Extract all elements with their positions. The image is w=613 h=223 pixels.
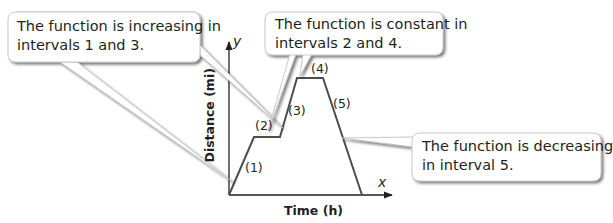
callout-decreasing-line1: The function is decreasing <box>422 137 613 156</box>
segment-label-3: (3) <box>288 103 306 118</box>
callout-constant: The function is constant in intervals 2 … <box>275 15 467 53</box>
segment-label-4: (4) <box>311 61 329 76</box>
callout-decreasing: The function is decreasing in interval 5… <box>422 137 613 175</box>
segment-label-1: (1) <box>245 160 263 175</box>
callout-increasing-line2: intervals 1 and 3. <box>17 36 221 55</box>
segment-label-2: (2) <box>255 118 273 133</box>
segment-label-5: (5) <box>333 96 351 111</box>
x-axis-title: Time (h) <box>284 203 343 218</box>
y-axis-title: Distance (mi) <box>202 73 217 163</box>
callout-decreasing-line2: in interval 5. <box>422 156 613 175</box>
callout-increasing-line1: The function is increasing in <box>17 17 221 36</box>
callout-constant-line2: intervals 2 and 4. <box>275 34 467 53</box>
callout-constant-line1: The function is constant in <box>275 15 467 34</box>
x-axis-variable: x <box>378 174 386 190</box>
y-axis-variable: y <box>233 33 241 49</box>
callout-increasing: The function is increasing in intervals … <box>17 17 221 55</box>
